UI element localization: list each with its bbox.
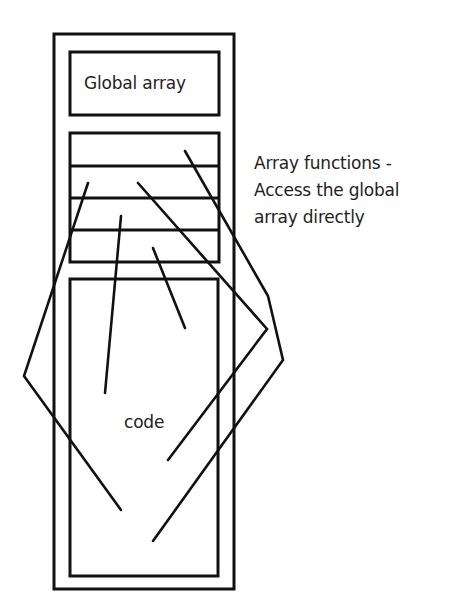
annotation-line-3: array directly <box>254 204 365 230</box>
array-functions-stack <box>70 133 219 262</box>
access-line-d <box>105 216 121 393</box>
access-line-c <box>24 183 121 510</box>
access-line-e <box>153 248 185 328</box>
code-label: code <box>124 410 164 434</box>
program-outer-box <box>54 34 234 589</box>
diagram-canvas <box>0 0 461 611</box>
global-array-label: Global array <box>84 71 186 95</box>
annotation-line-1: Array functions - <box>254 150 392 176</box>
annotation-line-2: Access the global <box>254 177 399 203</box>
